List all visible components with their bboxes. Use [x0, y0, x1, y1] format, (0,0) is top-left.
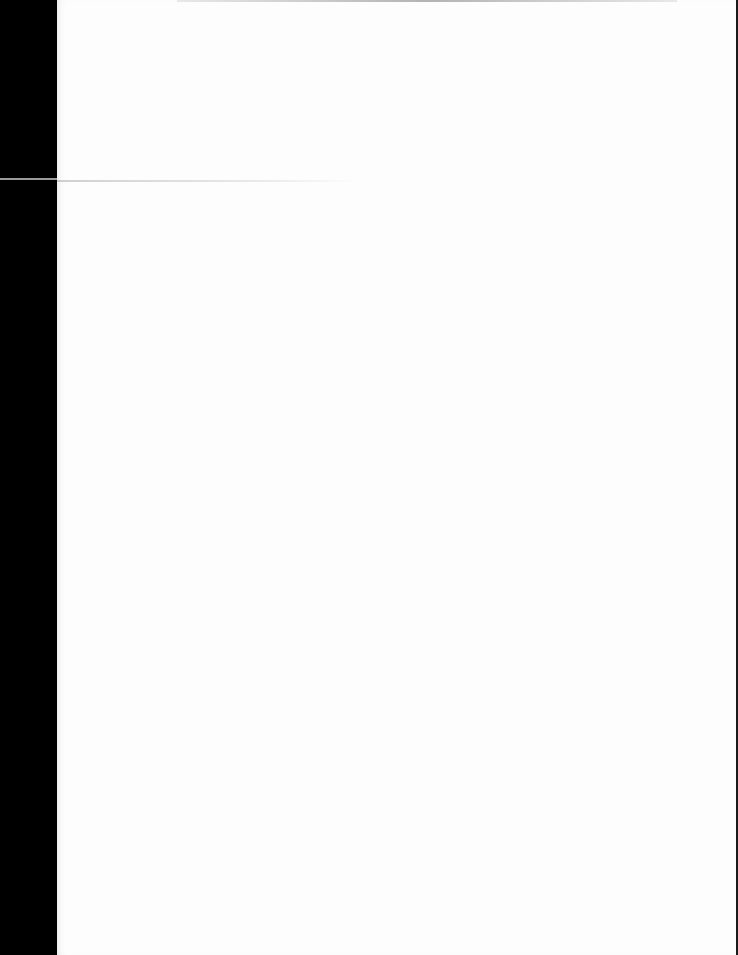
scanner-left-margin: [0, 0, 57, 955]
bleed-through-text-top: [57, 18, 738, 178]
blank-page: [57, 0, 736, 955]
horizontal-rule: [57, 180, 357, 182]
bleed-through-text-bottom: [57, 770, 738, 890]
page-top-edge: [177, 0, 677, 2]
scanned-page-view: [0, 0, 738, 955]
margin-rule-line: [0, 178, 57, 180]
